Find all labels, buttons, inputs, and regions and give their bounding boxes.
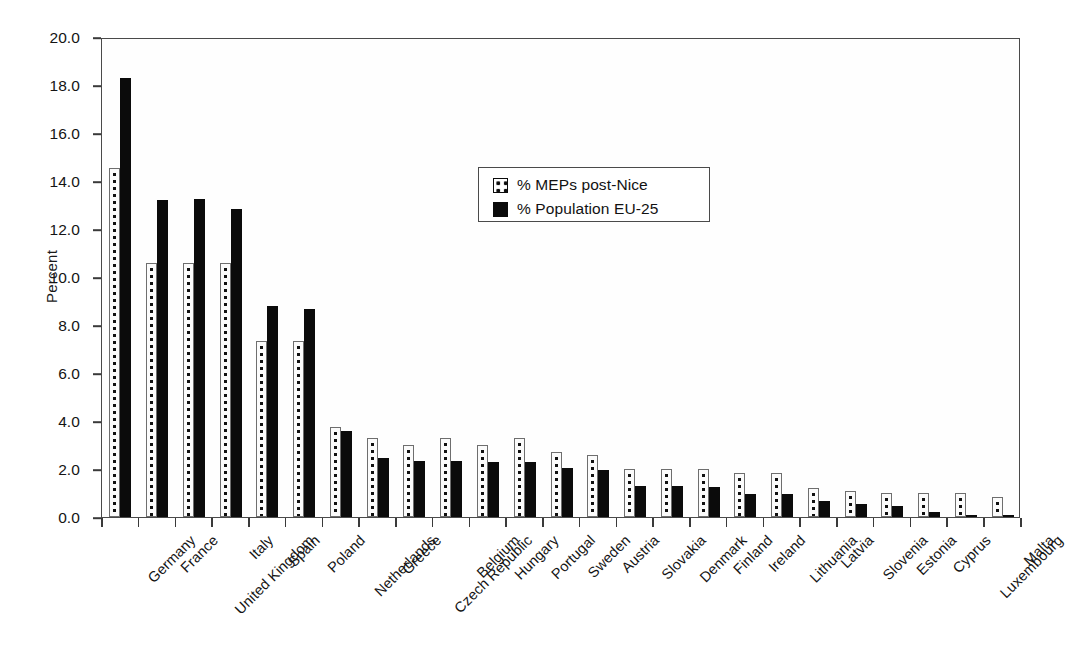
plot-area xyxy=(101,38,1020,518)
bar-meps xyxy=(440,438,451,517)
bar-population xyxy=(341,431,352,517)
y-tick-mark xyxy=(93,37,101,39)
x-tick-mark xyxy=(505,518,507,527)
bar-population xyxy=(414,461,425,517)
bar-meps xyxy=(624,469,635,517)
bar-population xyxy=(120,78,131,517)
bar-population xyxy=(892,506,903,517)
bar-population xyxy=(488,462,499,517)
bar-meps xyxy=(734,473,745,517)
x-tick-mark xyxy=(211,518,213,527)
x-tick-mark xyxy=(1020,518,1022,527)
bar-population xyxy=(267,306,278,517)
x-tick-mark xyxy=(175,518,177,527)
y-tick-label: 0.0 xyxy=(18,509,80,527)
y-tick-mark xyxy=(93,133,101,135)
bar-meps xyxy=(661,469,672,517)
y-tick-label: 16.0 xyxy=(18,125,80,143)
y-tick-mark xyxy=(93,277,101,279)
bar-population xyxy=(451,461,462,517)
bar-population xyxy=(819,501,830,517)
bar-population xyxy=(378,458,389,517)
y-tick-label: 14.0 xyxy=(18,173,80,191)
y-tick-mark xyxy=(93,469,101,471)
bar-meps xyxy=(992,497,1003,517)
bar-population xyxy=(635,486,646,517)
x-tick-mark xyxy=(579,518,581,527)
x-tick-mark xyxy=(873,518,875,527)
bar-meps xyxy=(109,168,120,517)
y-tick-label: 8.0 xyxy=(18,317,80,335)
y-tick-label: 4.0 xyxy=(18,413,80,431)
bar-meps xyxy=(551,452,562,517)
bar-meps xyxy=(587,455,598,517)
x-tick-mark xyxy=(542,518,544,527)
x-tick-mark xyxy=(322,518,324,527)
x-tick-mark xyxy=(763,518,765,527)
x-tick-mark xyxy=(799,518,801,527)
bar-population xyxy=(709,487,720,517)
x-tick-mark xyxy=(983,518,985,527)
legend-item-population: % Population EU-25 xyxy=(493,197,709,221)
x-axis-label: Spain xyxy=(285,532,323,570)
x-axis-label: Poland xyxy=(325,532,369,576)
bar-meps xyxy=(514,438,525,517)
x-tick-mark xyxy=(616,518,618,527)
bar-population xyxy=(782,494,793,517)
x-tick-mark xyxy=(469,518,471,527)
bar-population xyxy=(157,200,168,517)
y-tick-mark xyxy=(93,517,101,519)
y-tick-mark xyxy=(93,373,101,375)
x-tick-mark xyxy=(946,518,948,527)
bar-population xyxy=(194,199,205,517)
bar-meps xyxy=(146,263,157,517)
legend-item-meps: % MEPs post-Nice xyxy=(493,173,709,197)
bar-meps xyxy=(403,445,414,517)
x-tick-mark xyxy=(285,518,287,527)
bar-population xyxy=(598,470,609,517)
bar-population xyxy=(1003,515,1014,517)
x-tick-mark xyxy=(836,518,838,527)
bar-meps xyxy=(183,263,194,517)
bar-population xyxy=(929,512,940,517)
x-tick-mark xyxy=(652,518,654,527)
chart-legend: % MEPs post-Nice % Population EU-25 xyxy=(478,167,710,222)
x-tick-mark xyxy=(138,518,140,527)
bar-meps xyxy=(845,491,856,517)
bar-population xyxy=(856,504,867,517)
bar-meps xyxy=(918,493,929,517)
bar-population xyxy=(304,309,315,517)
bar-meps xyxy=(808,488,819,517)
legend-swatch-meps-icon xyxy=(493,178,508,193)
x-tick-mark xyxy=(248,518,250,527)
bar-population xyxy=(672,486,683,517)
bar-meps xyxy=(367,438,378,517)
x-tick-mark xyxy=(101,518,103,527)
bar-meps xyxy=(477,445,488,517)
bar-meps xyxy=(256,341,267,517)
bar-population xyxy=(966,515,977,517)
x-axis-label: Cyprus xyxy=(950,532,994,576)
bar-population xyxy=(525,462,536,517)
x-tick-mark xyxy=(432,518,434,527)
bar-meps xyxy=(881,493,892,517)
x-tick-mark xyxy=(910,518,912,527)
y-tick-mark xyxy=(93,181,101,183)
bar-population xyxy=(745,494,756,517)
y-tick-label: 20.0 xyxy=(18,29,80,47)
bar-meps xyxy=(330,427,341,517)
bar-meps xyxy=(220,263,231,517)
y-tick-mark xyxy=(93,325,101,327)
bar-population xyxy=(231,209,242,517)
legend-swatch-population-icon xyxy=(493,202,508,217)
bar-population xyxy=(562,468,573,517)
x-tick-mark xyxy=(395,518,397,527)
x-axis-label: Italy xyxy=(246,532,276,562)
bar-meps xyxy=(771,473,782,517)
bar-meps xyxy=(293,341,304,517)
x-axis-label: Ireland xyxy=(765,532,808,575)
y-tick-mark xyxy=(93,85,101,87)
y-tick-label: 18.0 xyxy=(18,77,80,95)
legend-label-meps: % MEPs post-Nice xyxy=(517,176,648,194)
